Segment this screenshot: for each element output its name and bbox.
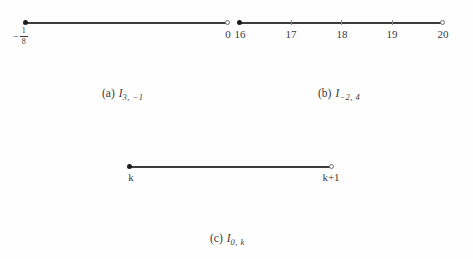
figure-intervals: − 1 8 0 16 17 18 19 20 (a)I3, −1 (b)I−2,… [0, 0, 473, 259]
caption-a-prefix: (a) [102, 87, 115, 99]
interval-a-left-closed-endpoint [23, 20, 28, 25]
fraction-denominator: 8 [20, 37, 28, 46]
interval-c-segment [130, 166, 332, 168]
tick-label-18: 18 [337, 28, 348, 40]
interval-a-left-endpoint-label: − 1 8 [13, 27, 28, 46]
interval-a-right-endpoint-label: 0 [225, 28, 231, 40]
tick-label-16: 16 [235, 28, 246, 40]
tick-label-20: 20 [438, 28, 449, 40]
caption-a-subscript: 3, −1 [123, 92, 144, 102]
tick-17 [291, 20, 292, 25]
caption-a: (a)I3, −1 [102, 86, 144, 104]
interval-a-segment [26, 22, 228, 24]
fraction-one-eighth: 1 8 [20, 27, 28, 46]
caption-c-subscript: 0, k [231, 237, 245, 247]
tick-label-19: 19 [387, 28, 398, 40]
tick-18 [341, 20, 342, 25]
interval-a-right-open-endpoint [225, 20, 230, 25]
interval-c-left-endpoint-label: k [128, 171, 134, 183]
interval-b-right-open-endpoint [440, 20, 445, 25]
minus-sign: − [13, 32, 19, 42]
tick-19 [392, 20, 393, 25]
interval-c-left-closed-endpoint [127, 164, 132, 169]
interval-b-left-closed-endpoint [237, 20, 242, 25]
interval-c-right-open-endpoint [329, 164, 334, 169]
tick-label-17: 17 [286, 28, 297, 40]
caption-b-prefix: (b) [318, 87, 331, 99]
caption-b: (b)I−2, 4 [318, 86, 360, 104]
caption-b-subscript: −2, 4 [339, 92, 360, 102]
caption-c-prefix: (c) [210, 232, 223, 244]
caption-c: (c)I0, k [210, 231, 245, 249]
fraction-numerator: 1 [20, 27, 28, 37]
interval-c-right-endpoint-label: k+1 [322, 171, 339, 183]
